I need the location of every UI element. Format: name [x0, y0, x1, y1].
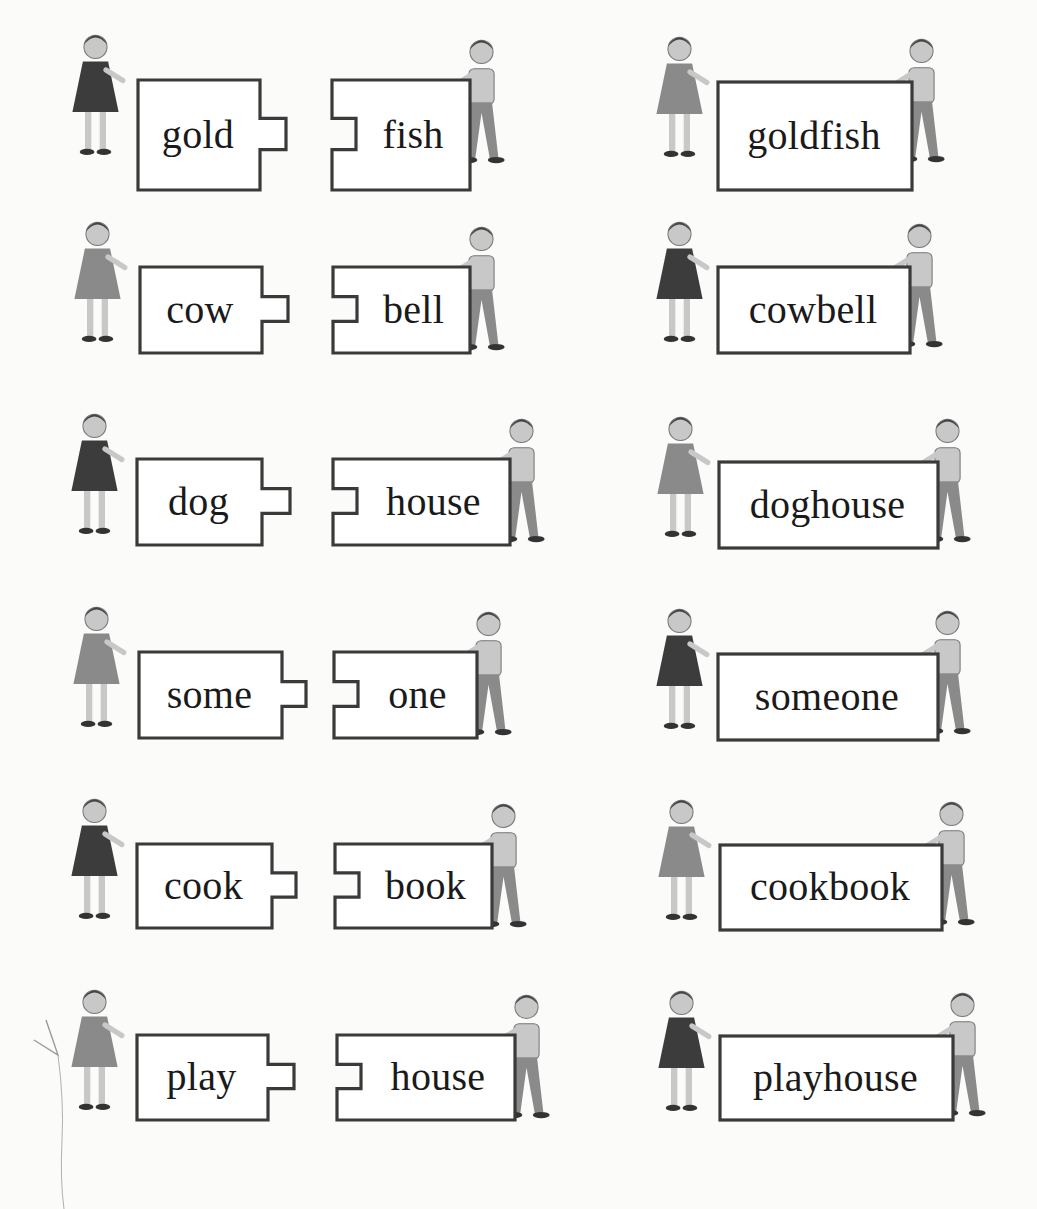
second-word: house [357, 457, 510, 545]
second-word: fish [356, 78, 470, 190]
compound-word: doghouse [717, 460, 938, 548]
compound-word: someone [716, 652, 938, 740]
right-word-piece: house [331, 457, 510, 545]
right-word-piece: house [335, 1033, 515, 1120]
child-figure-icon [650, 793, 713, 931]
left-word-piece: cook [135, 842, 296, 928]
left-word-piece: gold [136, 78, 286, 190]
left-word-piece: some [137, 650, 306, 738]
child-figure-icon [63, 407, 126, 545]
child-figure-icon [66, 215, 129, 353]
compound-word-card: someone [716, 652, 938, 740]
first-word: play [135, 1033, 268, 1120]
compound-word-card: cowbell [716, 265, 910, 353]
right-word-piece: book [333, 842, 492, 928]
second-word: one [358, 650, 477, 738]
child-figure-icon [65, 600, 128, 738]
compound-word: playhouse [718, 1034, 953, 1120]
child-figure-icon [648, 30, 711, 168]
left-word-piece: dog [135, 457, 290, 545]
first-word: gold [136, 78, 260, 190]
second-word: house [361, 1033, 515, 1120]
right-word-piece: bell [331, 265, 470, 353]
compound-word-card: goldfish [716, 80, 912, 190]
right-word-piece: one [332, 650, 477, 738]
left-word-piece: cow [138, 265, 288, 353]
compound-word: goldfish [716, 80, 912, 190]
child-figure-icon [64, 28, 127, 166]
compound-word-card: playhouse [718, 1034, 953, 1120]
child-figure-icon [649, 410, 712, 548]
second-word: book [359, 842, 492, 928]
first-word: some [137, 650, 282, 738]
compound-word: cowbell [716, 265, 910, 353]
first-word: cow [138, 265, 262, 353]
left-word-piece: play [135, 1033, 294, 1120]
child-figure-icon [650, 984, 713, 1122]
compound-word-card: doghouse [717, 460, 938, 548]
child-figure-icon [648, 602, 711, 740]
second-word: bell [357, 265, 470, 353]
first-word: cook [135, 842, 272, 928]
pencil-mark-icon [30, 1000, 80, 1209]
child-figure-icon [648, 215, 711, 353]
right-word-piece: fish [330, 78, 470, 190]
first-word: dog [135, 457, 262, 545]
child-figure-icon [63, 792, 126, 930]
compound-word-card: cookbook [718, 843, 942, 930]
compound-word: cookbook [718, 843, 942, 930]
